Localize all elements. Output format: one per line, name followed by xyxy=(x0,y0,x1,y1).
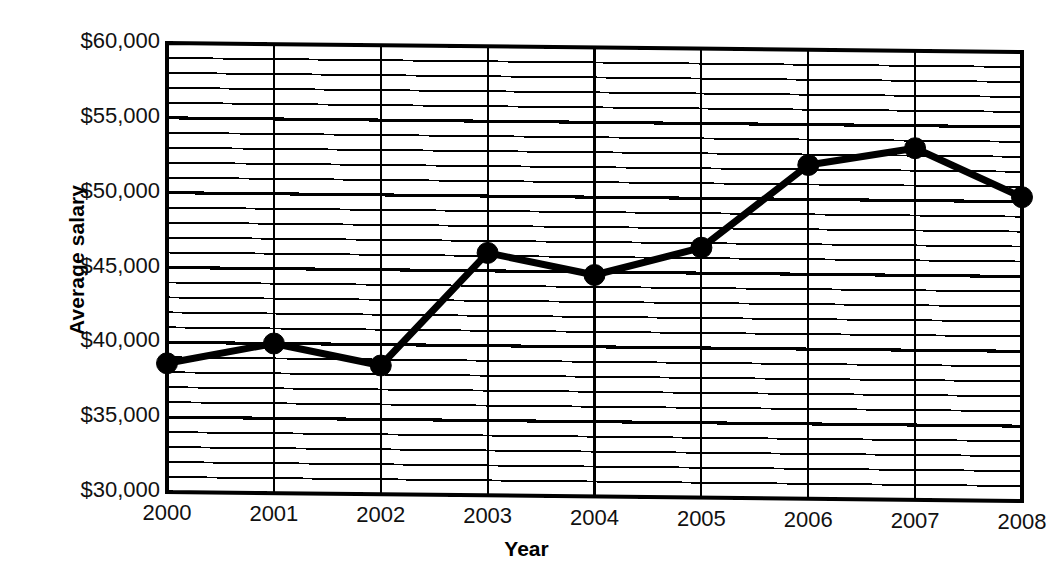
x-tick-label-2007: 2007 xyxy=(860,508,970,534)
x-tick-label-2005: 2005 xyxy=(646,506,756,532)
x-axis-tick-labels: 200020012002200320042005200620072008 xyxy=(0,0,1053,583)
x-axis-title: Year xyxy=(0,537,1053,561)
x-tick-label-2004: 2004 xyxy=(540,505,650,531)
x-tick-label-2002: 2002 xyxy=(326,502,436,528)
x-tick-label-2008: 2008 xyxy=(967,509,1053,535)
x-tick-label-2001: 2001 xyxy=(219,501,329,527)
x-tick-label-2006: 2006 xyxy=(753,507,863,533)
salary-line-chart: Average salary $30,000$35,000$40,000$45,… xyxy=(0,0,1053,583)
x-tick-label-2003: 2003 xyxy=(433,503,543,529)
x-tick-label-2000: 2000 xyxy=(112,500,222,526)
